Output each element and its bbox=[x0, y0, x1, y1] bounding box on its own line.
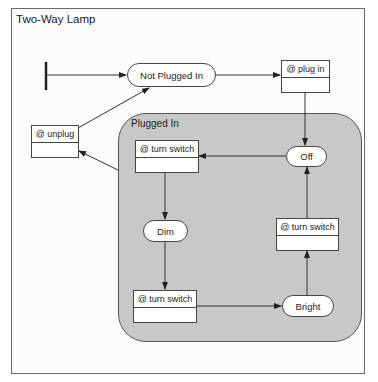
activity-label: @ turn switch bbox=[134, 291, 196, 308]
plugged-in-label: Plugged In bbox=[131, 118, 179, 129]
state-label: Bright bbox=[296, 301, 321, 312]
activity-unplug: @ unplug bbox=[31, 125, 79, 158]
state-label: Off bbox=[300, 151, 313, 162]
activity-label: @ unplug bbox=[32, 126, 78, 143]
activity-turn-switch-bottom: @ turn switch bbox=[133, 290, 197, 323]
state-not-plugged-in: Not Plugged In bbox=[127, 63, 216, 87]
state-label: Dim bbox=[157, 226, 174, 237]
state-bright: Bright bbox=[282, 295, 334, 317]
activity-label: @ plug in bbox=[282, 61, 329, 78]
state-label: Not Plugged In bbox=[140, 70, 203, 81]
state-diagram: Two-Way Lamp Plugged In Not Plu bbox=[0, 0, 378, 382]
state-dim: Dim bbox=[143, 220, 188, 242]
diagram-title: Two-Way Lamp bbox=[16, 13, 95, 25]
state-off: Off bbox=[286, 146, 327, 167]
activity-turn-switch-top: @ turn switch bbox=[135, 140, 199, 173]
activity-plug-in: @ plug in bbox=[281, 60, 330, 93]
activity-label: @ turn switch bbox=[277, 219, 338, 236]
activity-label: @ turn switch bbox=[136, 141, 198, 158]
activity-turn-switch-right: @ turn switch bbox=[276, 218, 339, 251]
